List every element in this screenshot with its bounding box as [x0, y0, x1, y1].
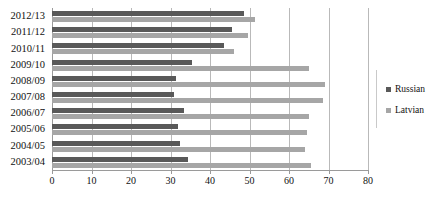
x-axis-tick-label: 60	[274, 175, 304, 186]
square-marker-icon	[386, 108, 391, 113]
legend-item-russian[interactable]: Russian	[386, 84, 425, 94]
bar-group	[52, 8, 368, 24]
y-axis-label: 2006/07	[11, 107, 45, 119]
chart-legend: RussianLatvian	[386, 84, 425, 126]
square-marker-icon	[386, 87, 391, 92]
legend-label: Latvian	[395, 105, 424, 115]
x-axis-tick-label: 50	[235, 175, 265, 186]
bar-russian-2011-12	[52, 27, 232, 32]
x-axis-tick-label: 0	[37, 175, 67, 186]
y-axis-label: 2012/13	[11, 10, 45, 22]
x-axis-tick	[52, 170, 53, 174]
gridline	[368, 8, 369, 170]
bar-russian-2003-04	[52, 157, 188, 162]
legend-divider	[376, 70, 377, 128]
y-axis-label: 2010/11	[11, 43, 45, 55]
bar-russian-2006-07	[52, 108, 184, 113]
bar-group	[52, 121, 368, 137]
bar-group	[52, 138, 368, 154]
x-axis-tick-label: 30	[156, 175, 186, 186]
bar-group	[52, 73, 368, 89]
bar-latvian-2003-04	[52, 163, 311, 168]
bar-latvian-2004-05	[52, 147, 305, 152]
x-axis-tick-label: 10	[77, 175, 107, 186]
x-axis-tick	[131, 170, 132, 174]
x-axis-tick-label: 40	[195, 175, 225, 186]
x-axis-tick-label: 70	[314, 175, 344, 186]
x-axis-tick	[289, 170, 290, 174]
bar-latvian-2006-07	[52, 114, 309, 119]
bar-latvian-2008-09	[52, 82, 325, 87]
x-axis-tick	[250, 170, 251, 174]
bar-group	[52, 40, 368, 56]
bar-russian-2009-10	[52, 60, 192, 65]
legend-label: Russian	[395, 84, 425, 94]
bar-group	[52, 24, 368, 40]
bar-latvian-2012-13	[52, 17, 255, 22]
y-axis-label: 2011/12	[11, 26, 45, 38]
x-axis-tick	[171, 170, 172, 174]
bar-russian-2004-05	[52, 141, 180, 146]
y-axis-label: 2004/05	[11, 140, 45, 152]
bar-russian-2007-08	[52, 92, 174, 97]
bar-russian-2008-09	[52, 76, 176, 81]
x-axis-tick	[329, 170, 330, 174]
bar-russian-2010-11	[52, 43, 224, 48]
y-axis-label: 2007/08	[11, 91, 45, 103]
bar-latvian-2005-06	[52, 130, 307, 135]
bar-latvian-2011-12	[52, 33, 248, 38]
plot-area	[52, 8, 368, 170]
y-axis-label: 2005/06	[11, 123, 45, 135]
x-axis-tick-label: 20	[116, 175, 146, 186]
x-axis-tick	[368, 170, 369, 174]
x-axis-tick-label: 80	[353, 175, 383, 186]
bar-russian-2012-13	[52, 11, 244, 16]
y-axis-label: 2008/09	[11, 75, 45, 87]
bar-latvian-2010-11	[52, 49, 234, 54]
bar-group	[52, 89, 368, 105]
y-axis-label: 2009/10	[11, 59, 45, 71]
bar-group	[52, 105, 368, 121]
x-axis-tick	[92, 170, 93, 174]
bar-latvian-2009-10	[52, 66, 309, 71]
y-axis-label: 2003/04	[11, 156, 45, 168]
bar-chart: 2012/132011/122010/112009/102008/092007/…	[0, 0, 437, 197]
y-axis-category-labels: 2012/132011/122010/112009/102008/092007/…	[0, 8, 48, 170]
bar-russian-2005-06	[52, 124, 178, 129]
bar-group	[52, 57, 368, 73]
bar-latvian-2007-08	[52, 98, 323, 103]
legend-item-latvian[interactable]: Latvian	[386, 105, 425, 115]
bar-group	[52, 154, 368, 170]
x-axis-tick	[210, 170, 211, 174]
